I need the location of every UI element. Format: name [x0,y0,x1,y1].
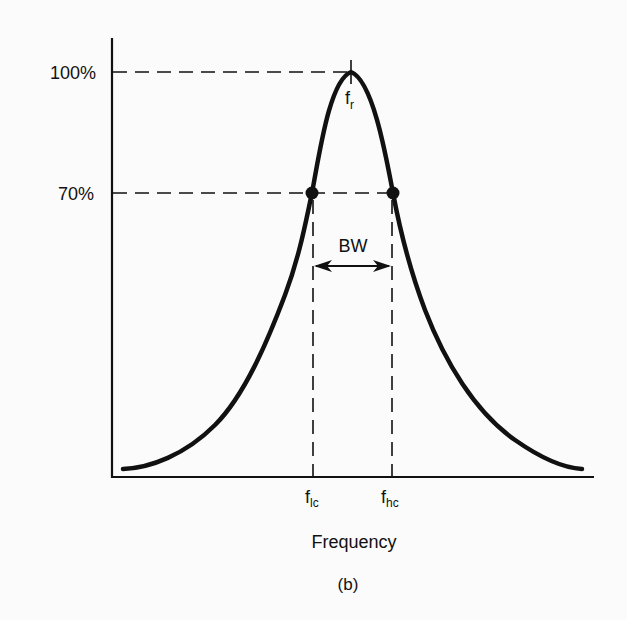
bandwidth-label: BW [339,236,368,256]
lower-cutoff-dot [306,187,319,200]
figure-caption: (b) [338,575,359,594]
resonant-frequency-label: fr [345,88,354,112]
resonance-curve-figure: 100% 70% BW fr flc fhc Frequency (b) [0,0,627,620]
x-axis-label: Frequency [311,532,396,552]
lower-cutoff-label: flc [305,487,319,510]
y-tick-100-label: 100% [50,63,96,83]
y-tick-70-label: 70% [58,184,94,204]
chart-canvas: 100% 70% BW fr flc fhc Frequency (b) [0,0,627,620]
upper-cutoff-label: fhc [381,487,399,510]
response-curve [123,72,582,469]
upper-cutoff-dot [387,187,400,200]
